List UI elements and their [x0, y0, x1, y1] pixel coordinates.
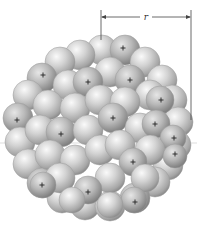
arrowhead-right-icon	[186, 15, 191, 19]
arrowhead-left-icon	[101, 15, 106, 19]
nucleus-spheres	[3, 35, 193, 221]
radius-label: r	[144, 12, 149, 22]
nucleus-diagram: r	[0, 0, 197, 230]
